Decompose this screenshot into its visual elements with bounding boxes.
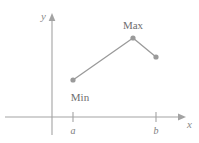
data-point-max: [130, 35, 135, 40]
data-point-endpoint: [153, 54, 158, 59]
graph-figure: y x a b Min Max: [0, 0, 199, 143]
coordinate-plot: y x a b Min Max: [0, 0, 199, 143]
y-axis-arrowhead: [49, 13, 56, 21]
x-axis-arrowhead: [178, 114, 186, 121]
x-axis-label: x: [186, 118, 192, 130]
x-tick-label-b: b: [154, 125, 159, 136]
max-point-label: Max: [123, 19, 144, 31]
x-tick-label-a: a: [71, 125, 76, 136]
min-point-label: Min: [71, 91, 90, 103]
y-axis-label: y: [40, 10, 46, 22]
curve-polyline: [73, 38, 156, 80]
data-point-min: [70, 77, 75, 82]
